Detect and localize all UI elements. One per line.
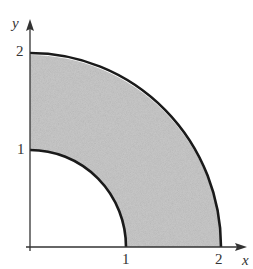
quarter-annulus-diagram [0, 0, 253, 269]
shaded-region [30, 55, 221, 247]
x-tick-1: 1 [122, 252, 130, 267]
y-axis-label: y [12, 16, 19, 31]
y-tick-1: 1 [17, 142, 25, 157]
y-tick-2: 2 [16, 44, 24, 59]
x-tick-2: 2 [215, 252, 223, 267]
x-axis-label: x [242, 253, 249, 268]
